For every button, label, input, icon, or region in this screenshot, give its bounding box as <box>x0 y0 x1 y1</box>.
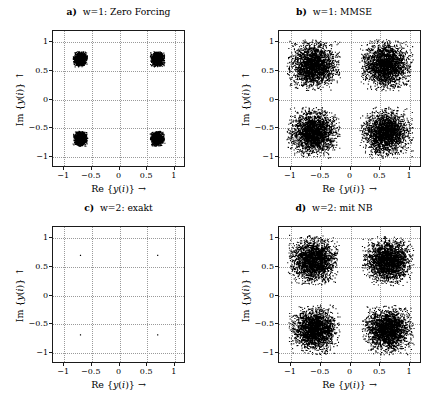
y-tick-label: 0 <box>254 290 274 299</box>
panel-title: b) w=1: MMSE <box>225 6 443 17</box>
x-tick-label: 0.5 <box>140 171 153 180</box>
y-tick-label: 0.5 <box>28 261 48 270</box>
x-tick-label: 0.5 <box>140 367 153 376</box>
x-axis-label: Re {y(i)} → <box>278 183 421 194</box>
x-tick-mark <box>174 363 175 366</box>
y-tick-label: 1 <box>254 37 274 46</box>
figure-canvas: a) w=1: Zero Forcing−1−0.500.51−1−0.500.… <box>0 0 443 399</box>
y-tick-label: −1 <box>254 347 274 356</box>
y-tick-mark <box>275 323 278 324</box>
y-tick-label: 0.5 <box>28 65 48 74</box>
x-tick-mark <box>320 363 321 366</box>
x-tick-mark <box>146 167 147 170</box>
y-axis-label: Im {y(i)} ↑ <box>14 71 25 126</box>
x-tick-label: −0.5 <box>310 171 329 180</box>
x-tick-label: 1 <box>407 367 412 376</box>
y-tick-mark <box>275 156 278 157</box>
x-tick-mark <box>63 167 64 170</box>
x-tick-label: −0.5 <box>81 171 100 180</box>
plot-panel-b: b) w=1: MMSE−1−0.500.51−1−0.500.51Re {y(… <box>225 6 443 207</box>
x-tick-label: 0.5 <box>373 367 386 376</box>
scatter-series <box>53 227 184 362</box>
x-tick-label: 1 <box>171 171 176 180</box>
plot-area <box>52 226 185 363</box>
y-tick-mark <box>49 237 52 238</box>
plot-panel-d: d) w=2: mit NB−1−0.500.51−1−0.500.51Re {… <box>225 202 443 399</box>
y-tick-label: −0.5 <box>254 123 274 132</box>
x-tick-mark <box>119 167 120 170</box>
y-tick-label: 1 <box>28 233 48 242</box>
panel-title: a) w=1: Zero Forcing <box>0 6 237 17</box>
y-tick-mark <box>49 352 52 353</box>
y-tick-mark <box>275 237 278 238</box>
x-tick-mark <box>146 363 147 366</box>
x-tick-label: −1 <box>284 171 296 180</box>
x-tick-mark <box>290 167 291 170</box>
x-tick-mark <box>63 363 64 366</box>
y-tick-mark <box>49 41 52 42</box>
y-tick-mark <box>275 70 278 71</box>
y-tick-mark <box>49 266 52 267</box>
y-tick-label: 0 <box>28 290 48 299</box>
x-tick-label: 1 <box>171 367 176 376</box>
y-tick-label: −0.5 <box>28 319 48 328</box>
x-tick-mark <box>91 167 92 170</box>
x-tick-mark <box>290 363 291 366</box>
y-axis-label: Im {y(i)} ↑ <box>240 71 251 126</box>
y-tick-label: −0.5 <box>28 123 48 132</box>
y-tick-label: 0 <box>254 94 274 103</box>
x-axis-label: Re {y(i)} → <box>52 379 185 390</box>
y-tick-mark <box>49 127 52 128</box>
x-tick-mark <box>350 363 351 366</box>
y-tick-label: 0 <box>28 94 48 103</box>
x-tick-label: 0.5 <box>373 171 386 180</box>
y-tick-mark <box>275 99 278 100</box>
y-tick-label: 0.5 <box>254 65 274 74</box>
y-axis-label: Im {y(i)} ↑ <box>14 267 25 322</box>
scatter-series <box>53 31 184 166</box>
x-tick-label: 0 <box>116 171 121 180</box>
y-tick-mark <box>49 295 52 296</box>
y-tick-label: −0.5 <box>254 319 274 328</box>
y-axis-label: Im {y(i)} ↑ <box>240 267 251 322</box>
panel-title: c) w=2: exakt <box>0 202 237 213</box>
y-tick-mark <box>275 41 278 42</box>
y-tick-label: 1 <box>254 233 274 242</box>
x-tick-label: 0 <box>347 367 352 376</box>
y-tick-mark <box>49 323 52 324</box>
x-tick-mark <box>409 363 410 366</box>
x-tick-label: −1 <box>284 367 296 376</box>
x-tick-mark <box>409 167 410 170</box>
x-tick-label: −1 <box>57 367 69 376</box>
panel-title: d) w=2: mit NB <box>225 202 443 213</box>
y-tick-mark <box>49 70 52 71</box>
x-tick-label: 0 <box>116 367 121 376</box>
y-tick-label: −1 <box>28 151 48 160</box>
x-tick-mark <box>320 167 321 170</box>
y-tick-mark <box>275 352 278 353</box>
x-tick-label: 0 <box>347 171 352 180</box>
x-tick-label: −1 <box>57 171 69 180</box>
plot-area <box>52 30 185 167</box>
plot-area <box>278 30 421 167</box>
x-tick-mark <box>119 363 120 366</box>
x-tick-mark <box>379 167 380 170</box>
y-tick-label: 1 <box>28 37 48 46</box>
plot-area <box>278 226 421 363</box>
scatter-series <box>279 227 420 362</box>
scatter-series <box>279 31 420 166</box>
x-tick-mark <box>350 167 351 170</box>
plot-panel-a: a) w=1: Zero Forcing−1−0.500.51−1−0.500.… <box>0 6 237 207</box>
y-tick-mark <box>275 295 278 296</box>
x-tick-mark <box>91 363 92 366</box>
y-tick-mark <box>275 127 278 128</box>
x-axis-label: Re {y(i)} → <box>52 183 185 194</box>
x-axis-label: Re {y(i)} → <box>278 379 421 390</box>
plot-panel-c: c) w=2: exakt−1−0.500.51−1−0.500.51Re {y… <box>0 202 237 399</box>
x-tick-label: −0.5 <box>81 367 100 376</box>
y-tick-mark <box>275 266 278 267</box>
y-tick-mark <box>49 99 52 100</box>
x-tick-mark <box>379 363 380 366</box>
x-tick-mark <box>174 167 175 170</box>
y-tick-label: −1 <box>254 151 274 160</box>
